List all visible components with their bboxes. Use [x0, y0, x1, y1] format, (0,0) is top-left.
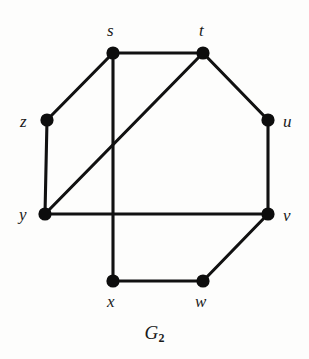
edge-v-w	[203, 214, 268, 281]
edge-t-y	[45, 53, 203, 214]
vertex-x	[106, 274, 119, 287]
vertex-v	[261, 207, 274, 220]
vertex-label-t: t	[199, 22, 204, 39]
edge-group	[45, 53, 268, 281]
graph-canvas	[0, 0, 309, 359]
caption-subscript: 2	[159, 331, 165, 345]
vertex-label-w: w	[195, 293, 206, 310]
vertex-y	[38, 207, 51, 220]
vertex-s	[106, 46, 119, 59]
vertex-t	[196, 46, 209, 59]
edge-s-z	[47, 53, 113, 120]
vertex-label-y: y	[19, 206, 27, 223]
graph-figure: stzuyvxw G2	[0, 0, 309, 359]
figure-caption: G2	[0, 322, 309, 346]
caption-base: G	[144, 322, 158, 343]
vertex-z	[40, 113, 53, 126]
edge-z-y	[45, 120, 47, 214]
vertex-label-x: x	[107, 293, 115, 310]
vertex-label-u: u	[283, 113, 292, 130]
vertex-label-v: v	[283, 207, 291, 224]
vertex-w	[196, 274, 209, 287]
vertex-group	[38, 46, 274, 287]
vertex-label-z: z	[20, 113, 27, 130]
vertex-u	[261, 113, 274, 126]
edge-t-u	[203, 53, 268, 120]
vertex-label-s: s	[107, 22, 114, 39]
